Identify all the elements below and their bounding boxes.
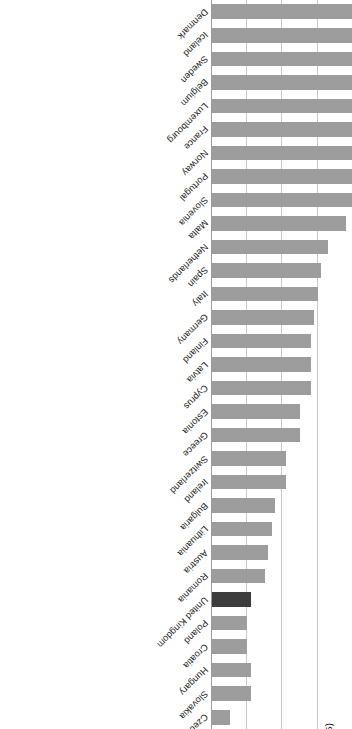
bar-united-kingdom bbox=[212, 592, 251, 607]
bar bbox=[212, 287, 318, 302]
bar-latvia bbox=[212, 357, 311, 372]
chart-canvas: 010203040506070% DenmarkIcelandSwedenBel… bbox=[176, 0, 352, 729]
source-note: Source: EU SILC data. Original analysis … bbox=[328, 0, 350, 729]
bar-croatia bbox=[212, 639, 247, 654]
bar-lithuania bbox=[212, 522, 272, 537]
bar bbox=[212, 404, 300, 419]
bar bbox=[212, 310, 314, 325]
bar bbox=[212, 451, 286, 466]
bar bbox=[212, 263, 321, 278]
category-label-croatia: Croatia bbox=[181, 642, 210, 671]
bar-ireland bbox=[212, 475, 286, 490]
bar-germany bbox=[212, 310, 314, 325]
bar bbox=[212, 569, 265, 584]
bar-cyprus bbox=[212, 381, 311, 396]
bar bbox=[212, 357, 311, 372]
bar-bulgaria bbox=[212, 498, 275, 513]
bar-greece bbox=[212, 428, 300, 443]
category-axis-labels: DenmarkIcelandSwedenBelgiumLuxembourgFra… bbox=[126, 0, 212, 729]
category-label-estonia: Estonia bbox=[181, 406, 210, 435]
bar bbox=[212, 240, 328, 255]
bar-spain bbox=[212, 263, 321, 278]
bar-estonia bbox=[212, 404, 300, 419]
bar-finland bbox=[212, 334, 311, 349]
bar bbox=[212, 639, 247, 654]
bar-hungary bbox=[212, 663, 251, 678]
bar bbox=[212, 334, 311, 349]
bar bbox=[212, 216, 346, 231]
bar bbox=[212, 498, 275, 513]
bar bbox=[212, 475, 286, 490]
bar-italy bbox=[212, 287, 318, 302]
bar bbox=[212, 663, 251, 678]
bar bbox=[212, 710, 230, 725]
bar bbox=[212, 592, 251, 607]
bar bbox=[212, 428, 300, 443]
bar bbox=[212, 381, 311, 396]
bar-poland bbox=[212, 616, 247, 631]
bar bbox=[212, 616, 247, 631]
bar-chart-figure: 010203040506070% DenmarkIcelandSwedenBel… bbox=[0, 0, 352, 729]
bar-malta bbox=[212, 216, 346, 231]
category-label-italy: Italy bbox=[191, 289, 210, 308]
bar-romania bbox=[212, 569, 265, 584]
bar-czech-republic bbox=[212, 710, 230, 725]
bar bbox=[212, 545, 268, 560]
bar-austria bbox=[212, 545, 268, 560]
source-note-text: Source: EU SILC data. Original analysis … bbox=[323, 723, 334, 729]
category-label-cyprus: Cyprus bbox=[182, 383, 210, 411]
bar bbox=[212, 686, 251, 701]
bar-netherlands bbox=[212, 240, 328, 255]
bar-slovakia bbox=[212, 686, 251, 701]
bar-switzerland bbox=[212, 451, 286, 466]
bar bbox=[212, 522, 272, 537]
